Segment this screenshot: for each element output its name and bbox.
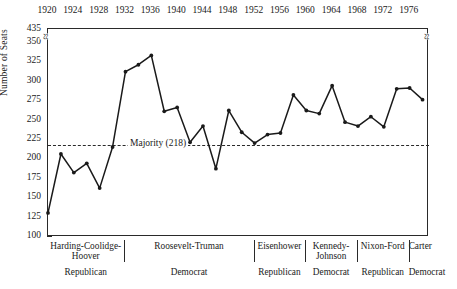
era-separator bbox=[409, 240, 410, 262]
party-label-1: Democrat bbox=[124, 267, 253, 277]
data-point: 1942: 222 bbox=[188, 140, 192, 144]
data-point: 1954: 232 bbox=[266, 133, 270, 137]
era-separator bbox=[254, 240, 255, 262]
party-label-5: Democrat bbox=[409, 267, 428, 277]
data-point: 1978: 277 bbox=[421, 98, 425, 102]
data-point: 1962: 259 bbox=[317, 112, 321, 116]
y-axis-title: Number of Seats bbox=[0, 29, 9, 96]
y-tick-label: 350 bbox=[14, 37, 41, 47]
x-tick-label: 1976 bbox=[394, 6, 424, 16]
series-line bbox=[48, 55, 423, 213]
data-point: 1950: 235 bbox=[240, 130, 244, 134]
chart-figure: Number of Seats 100125150175200225250275… bbox=[0, 0, 457, 289]
plot-area: Majority (218) 1920: 1311922: 2071924: 1… bbox=[47, 28, 428, 236]
era-label-carter: Carter bbox=[409, 241, 428, 251]
party-label-2: Republican bbox=[254, 267, 306, 277]
y-tick-label: 275 bbox=[14, 95, 41, 105]
y-axis-break-icon: ≈ bbox=[40, 33, 51, 39]
y-tick-label: 435 bbox=[14, 24, 41, 34]
y-tick-label: 250 bbox=[14, 115, 41, 125]
y-tick-label: 150 bbox=[14, 192, 41, 202]
data-point: 1956: 234 bbox=[279, 131, 283, 135]
data-point: 1934: 322 bbox=[137, 63, 141, 67]
y-tick-label: 225 bbox=[14, 134, 41, 144]
y-tick-label: 200 bbox=[14, 153, 41, 163]
data-point: 1928: 163 bbox=[98, 186, 102, 190]
y-tick-label: 325 bbox=[14, 56, 41, 66]
data-point: 1960: 263 bbox=[304, 109, 308, 113]
data-point: 1970: 255 bbox=[369, 115, 373, 119]
data-point: 1976: 292 bbox=[408, 86, 412, 90]
data-point: 1948: 263 bbox=[227, 109, 231, 113]
era-separator bbox=[305, 240, 306, 262]
data-point: 1932: 313 bbox=[124, 70, 128, 74]
data-point: 1944: 243 bbox=[201, 124, 205, 128]
data-point: 1952: 221 bbox=[253, 141, 257, 145]
data-point: 1926: 195 bbox=[85, 161, 89, 165]
era-label-harding-coolidge-hoover: Harding-Coolidge-Hoover bbox=[47, 241, 124, 261]
era-label-eisenhower: Eisenhower bbox=[254, 241, 306, 251]
data-point: 1966: 248 bbox=[343, 120, 347, 124]
era-separator bbox=[357, 240, 358, 262]
data-point: 1940: 267 bbox=[175, 106, 179, 110]
y-tick-label: 300 bbox=[14, 76, 41, 86]
data-point: 1958: 283 bbox=[291, 93, 295, 97]
data-line-series: 1920: 1311922: 2071924: 1831926: 1951928… bbox=[48, 29, 429, 237]
data-point: 1924: 183 bbox=[72, 171, 76, 175]
y-tick-label: 175 bbox=[14, 173, 41, 183]
data-point: 1922: 207 bbox=[59, 152, 63, 156]
era-label-nixon-ford: Nixon-Ford bbox=[357, 241, 409, 251]
era-separator bbox=[124, 240, 125, 262]
era-label-kennedy-johnson: Kennedy-Johnson bbox=[305, 241, 357, 261]
data-point: 1964: 295 bbox=[330, 84, 334, 88]
y-tick-label: 125 bbox=[14, 212, 41, 222]
data-point: 1946: 188 bbox=[214, 167, 218, 171]
y-tick-label: 100 bbox=[14, 231, 41, 241]
era-label-roosevelt-truman: Roosevelt-Truman bbox=[124, 241, 253, 251]
data-point: 1930: 216 bbox=[111, 145, 115, 149]
data-point: 1968: 243 bbox=[356, 124, 360, 128]
data-point: 1936: 334 bbox=[149, 54, 153, 58]
data-point: 1938: 262 bbox=[162, 109, 166, 113]
data-point: 1974: 291 bbox=[395, 87, 399, 91]
data-point: 1972: 242 bbox=[382, 125, 386, 129]
y-axis-break-icon-right: ≈ bbox=[421, 33, 432, 39]
party-label-3: Democrat bbox=[305, 267, 357, 277]
party-label-0: Republican bbox=[47, 267, 124, 277]
data-point: 1920: 131 bbox=[46, 211, 50, 215]
party-label-4: Republican bbox=[357, 267, 409, 277]
